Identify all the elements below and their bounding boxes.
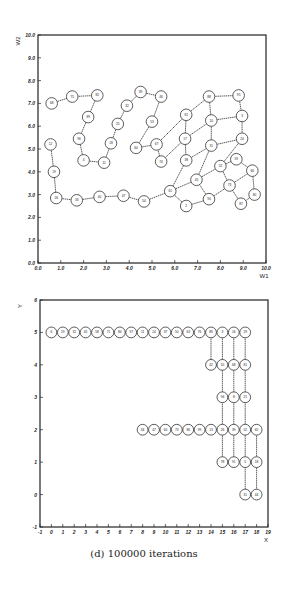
svg-text:73: 73 <box>228 183 232 187</box>
x-tick-label: 9.0 <box>240 265 247 271</box>
svg-text:39: 39 <box>232 428 236 432</box>
svg-text:47: 47 <box>122 194 126 198</box>
svg-text:61: 61 <box>168 189 172 193</box>
x-tick-label: 11 <box>174 529 179 535</box>
x-tick-label: 1.0 <box>57 265 64 271</box>
svg-text:58: 58 <box>95 330 99 334</box>
svg-text:24: 24 <box>240 137 244 141</box>
svg-text:86: 86 <box>186 428 190 432</box>
svg-text:37: 37 <box>164 330 168 334</box>
svg-text:8: 8 <box>233 395 235 399</box>
chart-figure: 0.01.02.03.04.05.06.07.08.09.010.00.01.0… <box>0 0 288 601</box>
y-tick-label: 0 <box>34 492 37 498</box>
svg-text:19: 19 <box>61 330 65 334</box>
svg-text:97: 97 <box>129 330 133 334</box>
svg-text:42: 42 <box>209 363 213 367</box>
svg-text:76: 76 <box>198 330 202 334</box>
svg-text:33: 33 <box>75 198 79 202</box>
svg-text:65: 65 <box>255 428 259 432</box>
svg-text:66: 66 <box>251 169 255 173</box>
x-tick-label: 13 <box>197 529 203 535</box>
svg-text:52: 52 <box>219 164 223 168</box>
svg-text:24: 24 <box>152 330 156 334</box>
x-tick-label: 1 <box>61 529 64 535</box>
y-tick-label: 4 <box>33 362 37 368</box>
svg-text:40: 40 <box>98 195 102 199</box>
svg-text:87: 87 <box>239 202 243 206</box>
x-tick-label: 19 <box>265 529 271 535</box>
y-axis-label: W2 <box>15 36 21 46</box>
svg-text:81: 81 <box>243 363 247 367</box>
svg-text:89: 89 <box>209 330 213 334</box>
y-tick-label: 6 <box>34 297 37 303</box>
svg-text:18: 18 <box>109 141 113 145</box>
x-tick-label: 8.0 <box>217 265 224 271</box>
svg-text:89: 89 <box>86 115 90 119</box>
y-tick-label: 3.0 <box>28 192 35 198</box>
svg-text:68: 68 <box>50 101 54 105</box>
svg-text:3: 3 <box>241 114 243 118</box>
som-weight-chart: 0.01.02.03.04.05.06.07.08.09.010.00.01.0… <box>15 32 271 279</box>
svg-text:26: 26 <box>54 196 58 200</box>
x-tick-label: 5 <box>107 529 110 535</box>
svg-text:45: 45 <box>84 330 88 334</box>
svg-text:32: 32 <box>72 330 76 334</box>
svg-text:80: 80 <box>253 193 257 197</box>
x-tick-label: 9 <box>153 529 156 535</box>
y-tick-label: 1.0 <box>28 237 35 243</box>
x-tick-label: 3 <box>84 529 87 535</box>
svg-text:31: 31 <box>243 493 247 497</box>
svg-text:55: 55 <box>221 363 225 367</box>
x-tick-label: 7.0 <box>194 265 201 271</box>
x-tick-label: 3.0 <box>103 265 110 271</box>
svg-text:25: 25 <box>116 122 120 126</box>
svg-text:31: 31 <box>210 144 214 148</box>
y-tick-label: 1 <box>34 459 37 465</box>
svg-text:54: 54 <box>142 199 146 203</box>
svg-text:73: 73 <box>175 428 179 432</box>
svg-text:2: 2 <box>185 204 187 208</box>
svg-text:96: 96 <box>77 137 81 141</box>
x-tick-label: 12 <box>185 529 191 535</box>
svg-text:39: 39 <box>139 90 143 94</box>
svg-text:84: 84 <box>118 330 122 334</box>
x-tick-label: 7 <box>130 529 133 535</box>
x-tick-label: -1 <box>38 529 43 535</box>
x-tick-label: 10.0 <box>261 265 271 271</box>
svg-text:68: 68 <box>232 363 236 367</box>
y-tick-label: 7.0 <box>28 100 35 106</box>
x-tick-label: 2 <box>72 529 76 535</box>
x-tick-label: 6 <box>118 529 121 535</box>
x-tick-label: 8 <box>141 529 144 535</box>
y-tick-label: 4.0 <box>27 169 35 175</box>
y-tick-label: 2.0 <box>27 214 35 220</box>
y-tick-label: 9.0 <box>28 55 35 61</box>
x-tick-label: 2.0 <box>79 265 87 271</box>
svg-text:82: 82 <box>96 93 100 97</box>
svg-text:60: 60 <box>134 146 138 150</box>
svg-text:16: 16 <box>232 330 236 334</box>
y-tick-label: 5 <box>34 329 37 335</box>
svg-text:11: 11 <box>102 161 106 165</box>
x-tick-label: 4.0 <box>125 265 133 271</box>
x-tick-label: 17 <box>242 529 248 535</box>
svg-text:60: 60 <box>164 428 168 432</box>
x-tick-label: 0.0 <box>35 265 42 271</box>
x-tick-label: 15 <box>220 529 226 535</box>
svg-text:45: 45 <box>195 178 199 182</box>
svg-text:71: 71 <box>107 330 111 334</box>
svg-text:44: 44 <box>255 493 259 497</box>
svg-text:99: 99 <box>198 428 202 432</box>
svg-text:34: 34 <box>141 428 145 432</box>
x-tick-label: 5.0 <box>149 265 156 271</box>
figure-caption: (d) 100000 iterations <box>0 548 288 559</box>
x-axis-label: X <box>264 537 268 543</box>
x-tick-label: 0 <box>50 529 53 535</box>
y-tick-label: -1 <box>33 524 38 530</box>
y-tick-label: 2 <box>33 427 37 433</box>
y-axis-label: Y <box>17 304 23 308</box>
x-axis-label: W1 <box>260 273 270 279</box>
y-tick-label: 6.0 <box>28 123 35 129</box>
svg-text:21: 21 <box>243 395 247 399</box>
x-tick-label: 14 <box>208 529 214 535</box>
